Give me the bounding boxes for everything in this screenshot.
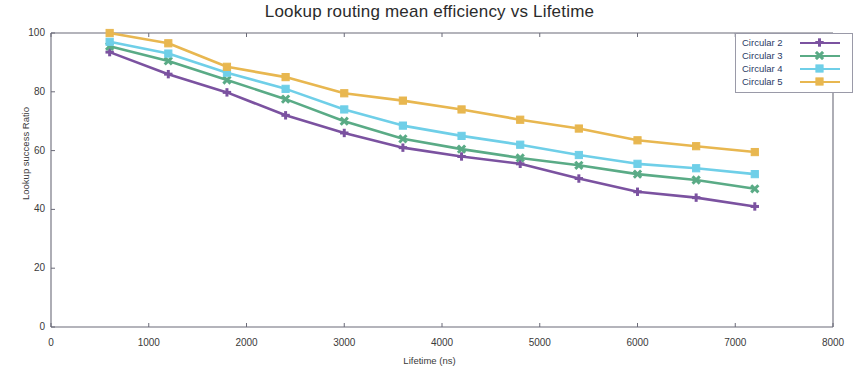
data-point-marker: [106, 29, 113, 36]
data-point-marker: [751, 148, 758, 155]
data-point-marker: [751, 171, 758, 178]
legend-item-4[interactable]: Circular 5: [736, 75, 852, 88]
legend-swatch: [800, 76, 840, 87]
x-tick-label: 6000: [608, 337, 668, 348]
series-line: [110, 42, 755, 174]
x-tick-label: 2000: [217, 337, 277, 348]
legend-marker-icon: [814, 77, 825, 86]
data-point-marker: [693, 143, 700, 150]
x-tick-label: 1000: [119, 337, 179, 348]
data-point-marker: [458, 106, 465, 113]
plot-area: [0, 0, 859, 374]
data-point-marker: [816, 78, 823, 85]
data-point-marker: [575, 125, 582, 132]
legend-item-label: Circular 5: [742, 76, 798, 87]
data-point-marker: [341, 106, 348, 113]
series-line: [110, 46, 755, 189]
data-point-marker: [282, 85, 289, 92]
series-line: [110, 52, 755, 206]
legend-swatch: [800, 63, 840, 74]
legend-item-label: Circular 4: [742, 63, 798, 74]
legend-item-label: Circular 2: [742, 37, 798, 48]
data-point-marker: [634, 137, 641, 144]
legend-item-1[interactable]: Circular 2: [736, 36, 852, 49]
x-tick-label: 0: [21, 337, 81, 348]
y-tick-label: 80: [11, 86, 45, 97]
series-3: [106, 38, 758, 178]
data-point-marker: [165, 40, 172, 47]
data-point-marker: [165, 50, 172, 57]
y-tick-label: 0: [11, 321, 45, 332]
data-point-marker: [223, 63, 230, 70]
series-4: [106, 29, 758, 155]
legend-marker-icon: [814, 51, 825, 60]
y-tick-label: 40: [11, 203, 45, 214]
data-point-marker: [106, 38, 113, 45]
y-tick-label: 60: [11, 145, 45, 156]
legend-swatch: [800, 50, 840, 61]
legend-item-label: Circular 3: [742, 50, 798, 61]
data-point-marker: [693, 165, 700, 172]
x-tick-label: 4000: [412, 337, 472, 348]
legend-item-3[interactable]: Circular 4: [736, 62, 852, 75]
data-point-marker: [517, 141, 524, 148]
x-tick-label: 5000: [510, 337, 570, 348]
data-point-marker: [634, 160, 641, 167]
chart-legend: Circular 2Circular 3Circular 4Circular 5: [735, 33, 853, 93]
legend-item-2[interactable]: Circular 3: [736, 49, 852, 62]
y-tick-label: 100: [11, 27, 45, 38]
chart-figure: Lookup routing mean efficiency vs Lifeti…: [0, 0, 859, 374]
data-point-marker: [816, 65, 823, 72]
legend-swatch: [800, 37, 840, 48]
legend-marker-icon: [814, 64, 825, 73]
x-tick-label: 8000: [803, 337, 859, 348]
x-tick-label: 7000: [705, 337, 765, 348]
series-line: [110, 33, 755, 152]
data-point-marker: [282, 74, 289, 81]
data-point-marker: [458, 132, 465, 139]
x-axis-label: Lifetime (ns): [0, 355, 859, 366]
x-tick-label: 3000: [314, 337, 374, 348]
data-point-marker: [399, 97, 406, 104]
data-point-marker: [517, 116, 524, 123]
data-point-marker: [575, 151, 582, 158]
legend-marker-icon: [814, 38, 825, 47]
data-point-marker: [399, 122, 406, 129]
y-tick-label: 20: [11, 262, 45, 273]
data-point-marker: [341, 90, 348, 97]
chart-title: Lookup routing mean efficiency vs Lifeti…: [0, 2, 859, 22]
